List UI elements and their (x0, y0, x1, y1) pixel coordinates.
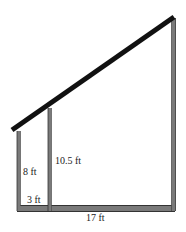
middle-post-height-label: 10.5 ft (55, 156, 81, 166)
short-span-label: 3 ft (27, 195, 41, 205)
short-post-height-label: 8 ft (23, 167, 37, 177)
total-span-label: 17 ft (86, 213, 105, 223)
middle-post (48, 108, 52, 211)
roof-rafter (12, 17, 174, 130)
base-beam (17, 206, 175, 212)
left-post (17, 131, 21, 211)
right-post (172, 18, 176, 211)
